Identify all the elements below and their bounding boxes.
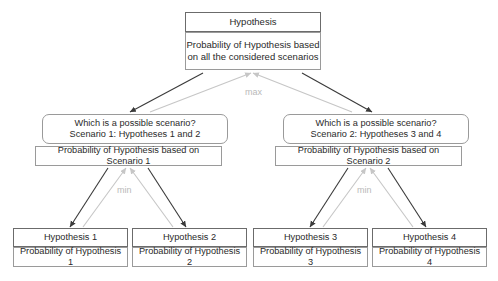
node-scenario-1[interactable]: Which is a possible scenario? Scenario 1… xyxy=(42,114,228,144)
hypothesis2-body-label: Probability of Hypothesis 2 xyxy=(136,246,243,269)
node-hypothesis-1[interactable]: Hypothesis 1 Probability of Hypothesis 1 xyxy=(13,228,128,267)
operator-max-text: max xyxy=(245,87,262,97)
operator-label-min-right: min xyxy=(357,185,372,195)
node-hypothesis-2[interactable]: Hypothesis 2 Probability of Hypothesis 2 xyxy=(132,228,247,267)
node-scenario-2-probability[interactable]: Probability of Hypothesis based on Scena… xyxy=(275,146,462,166)
operator-min-right-text: min xyxy=(357,185,372,195)
operator-label-min-left: min xyxy=(117,185,132,195)
scenario1-head-line1: Which is a possible scenario? xyxy=(74,118,195,130)
root-head-cell: Hypothesis xyxy=(185,12,321,32)
edge-scenario1-to-root-max xyxy=(150,73,251,112)
hypothesis3-body-label: Probability of Hypothesis 3 xyxy=(257,246,364,269)
root-body-line2: on all the considered scenarios xyxy=(188,51,319,63)
hypothesis1-body-label: Probability of Hypothesis 1 xyxy=(17,246,124,269)
root-body-cell: Probability of Hypothesis based on all t… xyxy=(185,32,321,70)
scenario1-body-label: Probability of Hypothesis based on Scena… xyxy=(40,145,217,168)
hypothesis3-head-cell: Hypothesis 3 xyxy=(253,228,368,247)
scenario2-head-line2: Scenario 2: Hypotheses 3 and 4 xyxy=(311,129,442,141)
hypothesis4-body-cell: Probability of Hypothesis 4 xyxy=(372,247,487,267)
hypothesis3-head-label: Hypothesis 3 xyxy=(284,232,337,244)
node-scenario-2[interactable]: Which is a possible scenario? Scenario 2… xyxy=(283,114,469,144)
scenario1-head-line2: Scenario 1: Hypotheses 1 and 2 xyxy=(70,129,201,141)
scenario2-body-label: Probability of Hypothesis based on Scena… xyxy=(280,145,457,168)
hypothesis4-head-cell: Hypothesis 4 xyxy=(372,228,487,247)
node-hypothesis-3[interactable]: Hypothesis 3 Probability of Hypothesis 3 xyxy=(253,228,368,267)
hypothesis1-head-cell: Hypothesis 1 xyxy=(13,228,128,247)
scenario2-body-cell: Probability of Hypothesis based on Scena… xyxy=(275,146,462,166)
operator-label-max: max xyxy=(245,87,262,97)
hypothesis2-head-label: Hypothesis 2 xyxy=(163,232,216,244)
hypothesis2-head-cell: Hypothesis 2 xyxy=(132,228,247,247)
node-hypothesis-4[interactable]: Hypothesis 4 Probability of Hypothesis 4 xyxy=(372,228,487,267)
scenario1-head-cell: Which is a possible scenario? Scenario 1… xyxy=(42,114,228,144)
node-root-hypothesis[interactable]: Hypothesis Probability of Hypothesis bas… xyxy=(185,12,321,70)
hypothesis2-body-cell: Probability of Hypothesis 2 xyxy=(132,247,247,267)
scenario2-head-line1: Which is a possible scenario? xyxy=(315,118,436,130)
hypothesis3-body-cell: Probability of Hypothesis 3 xyxy=(253,247,368,267)
hypothesis1-body-cell: Probability of Hypothesis 1 xyxy=(13,247,128,267)
hypothesis1-head-label: Hypothesis 1 xyxy=(44,232,97,244)
node-scenario-1-probability[interactable]: Probability of Hypothesis based on Scena… xyxy=(35,146,222,166)
diagram-canvas: Hypothesis Probability of Hypothesis bas… xyxy=(0,0,498,281)
hypothesis4-body-label: Probability of Hypothesis 4 xyxy=(376,246,483,269)
hypothesis4-head-label: Hypothesis 4 xyxy=(403,232,456,244)
operator-min-left-text: min xyxy=(117,185,132,195)
scenario1-body-cell: Probability of Hypothesis based on Scena… xyxy=(35,146,222,166)
root-body-line1: Probability of Hypothesis based xyxy=(186,39,319,51)
scenario2-head-cell: Which is a possible scenario? Scenario 2… xyxy=(283,114,469,144)
root-head-label: Hypothesis xyxy=(230,16,277,28)
